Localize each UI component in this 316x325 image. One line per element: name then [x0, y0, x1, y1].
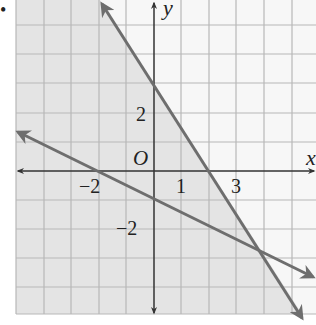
tick-label-x-neg2: −2 [79, 175, 100, 197]
y-axis-label: y [161, 0, 173, 20]
tick-label-x-1: 1 [176, 175, 186, 197]
x-axis-label: x [305, 145, 316, 170]
bullet: • [0, 0, 6, 20]
coordinate-graph: • y x O −2 1 3 2 −2 [0, 0, 316, 325]
tick-label-x-3: 3 [231, 175, 241, 197]
tick-label-y-2: 2 [136, 103, 146, 125]
tick-label-y-neg2: −2 [116, 217, 137, 239]
origin-label: O [133, 146, 148, 170]
